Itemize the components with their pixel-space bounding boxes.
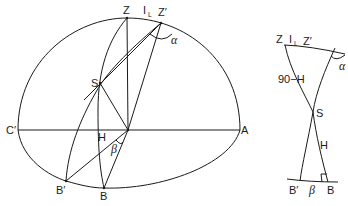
- point-center: [127, 129, 129, 131]
- point-z: [126, 17, 128, 19]
- label-i-subscript: L: [148, 11, 152, 18]
- label-z: Z: [123, 4, 130, 16]
- label-bprime: B′: [56, 184, 65, 196]
- meridian-z-s-b: [98, 18, 127, 188]
- diagram-canvas: Z I L Z′ α S C′ A H β B′ B Z I L Z′ α 90…: [0, 0, 348, 206]
- right-spherical-triangle: Z I L Z′ α 90−H S H B′ β B: [276, 33, 346, 197]
- label-b: B: [100, 190, 107, 202]
- outer-upper-arc: [18, 18, 240, 130]
- label-i: I: [143, 4, 146, 16]
- label-bprime-right: B′: [289, 184, 298, 196]
- label-cprime: C′: [6, 124, 16, 136]
- label-zprime: Z′: [158, 6, 167, 18]
- point-b: [103, 187, 105, 189]
- label-h-right: H: [320, 139, 328, 151]
- label-z-right: Z: [276, 33, 283, 45]
- center-b-line: [104, 130, 128, 188]
- outer-lower-arc: [18, 130, 240, 188]
- zenith-vertical: [127, 18, 128, 130]
- label-90-minus-h: 90−H: [278, 73, 305, 85]
- label-beta: β: [110, 142, 117, 156]
- point-zprime: [160, 22, 162, 24]
- beta-angle-arc: [116, 140, 123, 144]
- point-s: [99, 82, 101, 84]
- point-bprime: [65, 180, 67, 182]
- label-i-subscript-right: L: [294, 40, 298, 47]
- label-alpha-right: α: [339, 59, 346, 73]
- label-a: A: [241, 124, 249, 136]
- label-b-right: B: [327, 184, 334, 196]
- alpha-angle-arc: [150, 34, 172, 39]
- label-s: S: [91, 77, 98, 89]
- bottom-arc: [287, 179, 338, 182]
- label-alpha: α: [171, 33, 178, 47]
- left-spherical-figure: Z I L Z′ α S C′ A H β B′ B: [6, 4, 249, 202]
- label-s-right: S: [316, 107, 323, 119]
- label-h: H: [98, 131, 106, 143]
- label-beta-right: β: [308, 183, 315, 197]
- label-i-right: I: [289, 33, 292, 45]
- s-center-line: [100, 83, 128, 130]
- arc-zprime-s-bprime: [66, 23, 161, 181]
- label-zprime-right: Z′: [303, 35, 312, 47]
